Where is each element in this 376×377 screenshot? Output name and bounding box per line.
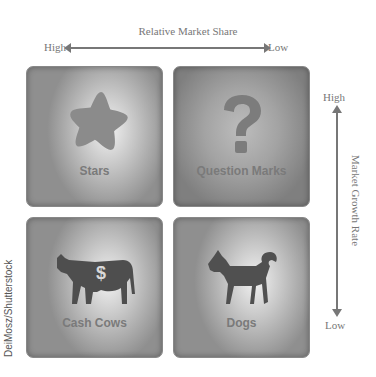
question-mark-icon (218, 94, 266, 156)
vertical-axis-high-label: High (323, 91, 345, 103)
svg-text:$: $ (96, 263, 106, 283)
image-credit: DeiMosz/Shutterstock (3, 262, 14, 357)
quadrant-label: Dogs (174, 316, 309, 330)
quadrant-cash-cows: $ Cash Cows (26, 217, 163, 358)
dog-icon (206, 248, 280, 310)
double-arrow-horizontal-icon (70, 47, 265, 49)
quadrant-label: Stars (27, 164, 162, 178)
quadrant-label: Question Marks (174, 164, 309, 178)
cow-dollar-icon: $ (55, 248, 137, 306)
horizontal-axis-low-label: Low (268, 41, 288, 53)
vertical-axis-low-label: Low (325, 319, 345, 331)
quadrant-label: Cash Cows (27, 316, 162, 330)
star-icon (67, 89, 129, 151)
quadrant-dogs: Dogs (173, 217, 310, 358)
vertical-axis-title: Market Growth Rate (350, 155, 362, 246)
horizontal-axis-title: Relative Market Share (0, 25, 376, 37)
quadrant-question-marks: Question Marks (173, 66, 310, 207)
horizontal-axis-high-label: High (44, 41, 66, 53)
quadrant-stars: Stars (26, 66, 163, 207)
double-arrow-vertical-icon (336, 112, 338, 310)
